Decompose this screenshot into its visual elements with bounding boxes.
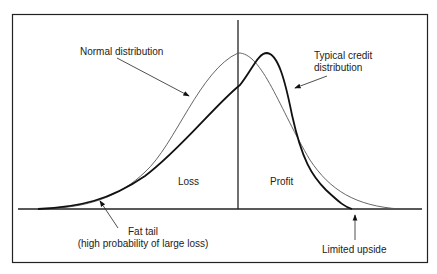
limited-upside-label: Limited upside <box>322 244 386 256</box>
fat-tail-label: Fat tail (high probability of large loss… <box>73 226 213 250</box>
credit-label-line2: distribution <box>314 62 372 74</box>
credit-label-line1: Typical credit <box>314 50 372 62</box>
fat-tail-pointer-arrow <box>100 201 118 228</box>
credit-pointer-arrow <box>295 76 327 88</box>
credit-distribution-label: Typical credit distribution <box>314 50 372 74</box>
normal-distribution-curve <box>40 53 400 209</box>
fat-tail-line2: (high probability of large loss) <box>73 238 213 250</box>
normal-distribution-label: Normal distribution <box>80 46 163 58</box>
fat-tail-line1: Fat tail <box>73 226 213 238</box>
normal-pointer-arrow <box>117 58 189 96</box>
distribution-diagram <box>0 0 437 274</box>
profit-region-label: Profit <box>270 176 293 188</box>
loss-region-label: Loss <box>178 176 199 188</box>
